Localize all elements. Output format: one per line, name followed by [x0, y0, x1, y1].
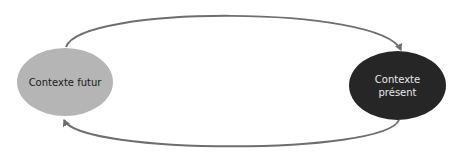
node-label: Contexte présent	[368, 73, 428, 99]
node-contexte-present: Contexte présent	[349, 51, 446, 120]
arrow-present-to-future	[64, 120, 399, 146]
node-label: Contexte futur	[29, 76, 102, 89]
node-contexte-futur: Contexte futur	[17, 48, 113, 116]
arrow-future-to-present	[66, 16, 401, 50]
